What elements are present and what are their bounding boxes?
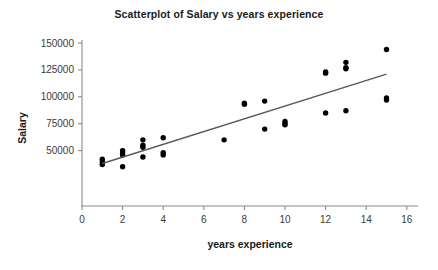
scatterplot-figure: Scatterplot of Salary vs years experienc…	[0, 0, 438, 270]
y-axis-tick-group: 5000075000100000125000150000	[41, 38, 82, 157]
data-point	[262, 126, 267, 131]
data-point	[323, 110, 328, 115]
x-axis-tick-label: 14	[361, 214, 373, 225]
data-point	[343, 108, 348, 113]
y-axis-title: Salary	[16, 112, 28, 144]
data-point	[384, 97, 389, 102]
y-axis-tick-label: 75000	[46, 118, 74, 129]
data-point	[282, 122, 287, 127]
data-point	[343, 66, 348, 71]
x-axis-tick-label: 2	[120, 214, 126, 225]
x-axis-tick-label: 4	[160, 214, 166, 225]
regression-line	[102, 74, 386, 163]
data-point	[161, 152, 166, 157]
data-point	[384, 47, 389, 52]
x-axis-tick-label: 6	[201, 214, 207, 225]
data-point	[140, 154, 145, 159]
data-point	[120, 164, 125, 169]
y-axis-tick-label: 50000	[46, 145, 74, 156]
x-axis-tick-label: 16	[401, 214, 413, 225]
x-axis-tick-label: 0	[79, 214, 85, 225]
x-axis-tick-label: 12	[320, 214, 332, 225]
y-axis-tick-label: 125000	[41, 64, 75, 75]
data-point	[161, 135, 166, 140]
data-point	[262, 98, 267, 103]
data-point	[343, 60, 348, 65]
data-point	[323, 70, 328, 75]
data-point	[221, 137, 226, 142]
x-axis-tick-label: 10	[279, 214, 291, 225]
data-point	[140, 137, 145, 142]
y-axis-tick-label: 150000	[41, 38, 75, 49]
y-axis-tick-label: 100000	[41, 91, 75, 102]
data-point	[242, 102, 247, 107]
x-axis-title: years experience	[207, 238, 292, 250]
x-axis-tick-group: 0246810121416	[79, 206, 413, 225]
plot-area: 5000075000100000125000150000 02468101214…	[0, 0, 438, 270]
data-point	[140, 145, 145, 150]
x-axis-tick-label: 8	[242, 214, 248, 225]
